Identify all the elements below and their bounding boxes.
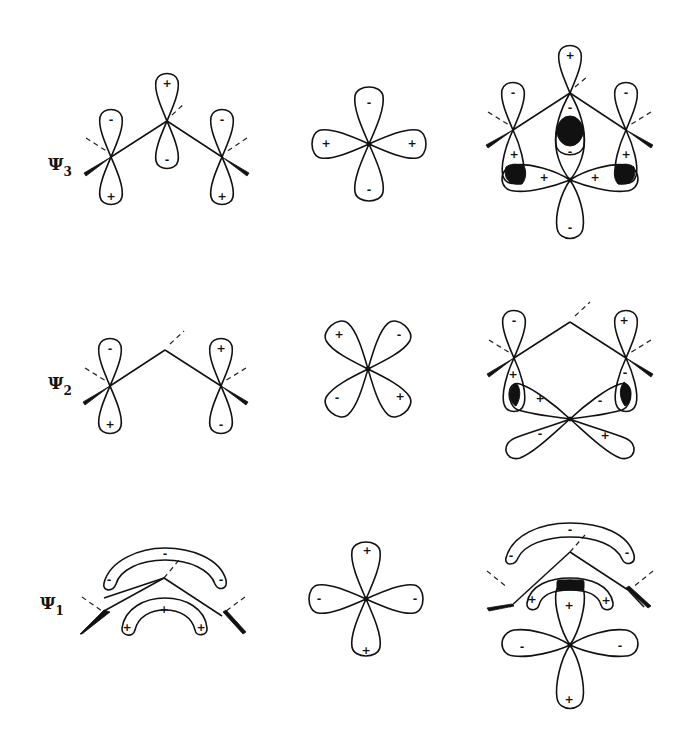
svg-text:-: - [568,221,573,234]
svg-text:+: + [334,328,343,341]
svg-text:+: + [122,621,131,634]
d-orbital-psi1: + + - - [309,542,423,657]
svg-text:+: + [527,593,536,606]
orbital-diagram: Ψ3 - + + - - + [0,0,688,746]
svg-text:-: - [624,86,629,99]
row-psi1: Ψ1 - - - + + + [40,523,653,709]
d-orbital-psi2: + - - + [320,316,415,422]
svg-text:-: - [219,573,224,586]
svg-text:-: - [509,549,514,562]
svg-text:-: - [108,342,113,355]
svg-text:+: + [601,594,610,607]
svg-text:-: - [413,592,418,605]
svg-text:+: + [600,429,609,442]
label-psi3: Ψ3 [48,154,72,179]
label-psi2: Ψ2 [48,373,72,398]
svg-text:-: - [165,153,170,166]
svg-text:-: - [618,639,623,652]
svg-text:-: - [367,183,372,196]
svg-text:+: + [196,621,205,634]
svg-text:+: + [508,368,517,381]
svg-text:+: + [216,342,225,355]
svg-text:+: + [564,693,573,706]
svg-text:-: - [367,96,372,109]
svg-text:-: - [568,145,573,158]
svg-text:-: - [538,427,543,440]
combined-orbital-psi2: - + + - + - - + [487,302,653,459]
svg-text:-: - [511,86,516,99]
svg-text:+: + [362,544,371,557]
svg-text:-: - [109,113,114,126]
svg-text:+: + [395,390,404,403]
svg-text:-: - [397,328,402,341]
svg-text:-: - [163,547,168,560]
svg-text:+: + [590,171,599,184]
svg-text:+: + [162,77,171,90]
svg-text:+: + [564,599,573,612]
svg-text:+: + [509,148,518,161]
row-psi3: Ψ3 - + + - - + [48,46,653,239]
svg-text:-: - [623,366,628,379]
svg-text:-: - [512,314,517,327]
combined-orbital-psi3: + - - - - + + + + - [486,46,653,239]
svg-text:-: - [568,523,573,536]
svg-text:+: + [106,190,115,203]
allyl-orbital-psi2: - + + - [83,331,248,434]
svg-text:+: + [539,171,548,184]
svg-text:+: + [105,418,114,431]
allyl-orbital-psi3: - + + - - + [84,74,249,205]
svg-text:-: - [520,640,525,653]
label-psi1: Ψ1 [40,593,64,618]
svg-text:+: + [621,148,630,161]
svg-text:+: + [361,644,370,657]
svg-text:-: - [598,394,603,407]
svg-text:+: + [321,137,330,150]
svg-text:+: + [535,392,544,405]
svg-text:+: + [159,603,168,616]
svg-text:-: - [568,101,573,114]
svg-text:+: + [565,49,574,62]
allyl-orbital-psi1: - - - + + + [80,547,246,635]
svg-text:-: - [219,418,224,431]
combined-orbital-psi1: - - - + + + - - + [487,523,653,709]
svg-text:-: - [220,113,225,126]
svg-text:+: + [407,137,416,150]
svg-text:-: - [107,573,112,586]
d-orbital-psi3: - - + + [312,87,426,201]
svg-text:-: - [317,592,322,605]
svg-text:+: + [619,314,628,327]
svg-text:-: - [335,391,340,404]
row-psi2: Ψ2 - + + - + - - + [48,302,653,459]
svg-text:-: - [625,546,630,559]
svg-text:+: + [217,190,226,203]
